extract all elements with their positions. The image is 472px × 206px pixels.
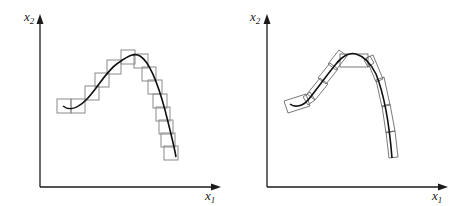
axis-aligned-bounding-boxes [57, 50, 178, 160]
x-axis-arrow-icon [211, 184, 221, 191]
y-axis-arrow-icon [264, 14, 271, 24]
y-axis-label: x2 [23, 9, 35, 26]
curve [63, 55, 176, 157]
oriented-bounding-boxes [284, 50, 398, 158]
diagram-canvas: x2 x1 x2 x1 [0, 0, 472, 206]
x-axis-arrow-icon [438, 184, 448, 191]
x-axis-label: x1 [431, 188, 442, 205]
right-panel: x2 x1 [249, 9, 448, 205]
left-panel: x2 x1 [23, 9, 221, 205]
curve [290, 53, 392, 158]
y-axis-label: x2 [249, 9, 261, 26]
x-axis-label: x1 [204, 188, 215, 205]
y-axis-arrow-icon [37, 14, 44, 24]
